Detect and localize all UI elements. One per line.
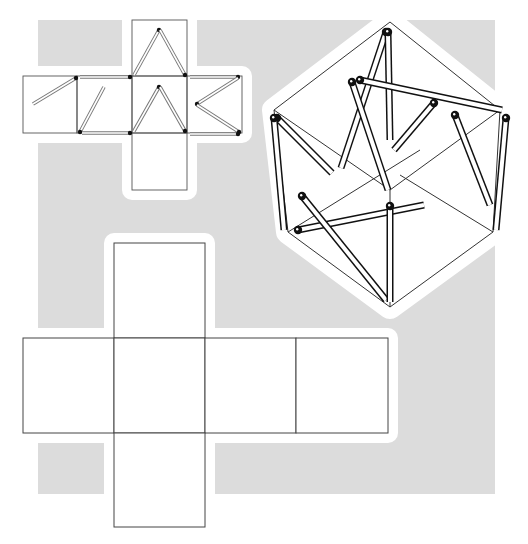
match-head-highlight xyxy=(300,194,302,196)
match-head xyxy=(236,132,240,136)
figure-canvas xyxy=(0,0,528,544)
match-head xyxy=(78,130,82,134)
match-head xyxy=(128,75,132,79)
small-match xyxy=(190,132,240,136)
large-net-face-bottom xyxy=(114,433,205,527)
small-match xyxy=(190,75,240,79)
large-net-face-center xyxy=(114,338,205,433)
match-head-highlight xyxy=(358,78,360,80)
match-head-highlight xyxy=(432,101,434,103)
small-match xyxy=(80,75,132,79)
cube-match xyxy=(386,202,394,302)
match-head-highlight xyxy=(386,30,388,32)
match-head-highlight xyxy=(388,204,390,206)
match-head-highlight xyxy=(272,116,274,118)
small-net-halo xyxy=(122,123,197,200)
large-net-face-left xyxy=(23,338,114,433)
match-head xyxy=(74,76,78,80)
match-head-highlight xyxy=(296,228,298,230)
large-net-face-top xyxy=(114,243,205,338)
match-head-highlight xyxy=(504,116,506,118)
large-net-face-right xyxy=(205,338,296,433)
match-head-highlight xyxy=(350,80,352,82)
match-head-highlight xyxy=(453,113,455,115)
large-net-face-far-right xyxy=(296,338,388,433)
small-match xyxy=(82,131,132,135)
match-head xyxy=(183,73,187,77)
matchstick-cube-figure xyxy=(0,0,528,544)
match-head xyxy=(128,131,132,135)
match-head xyxy=(183,129,187,133)
